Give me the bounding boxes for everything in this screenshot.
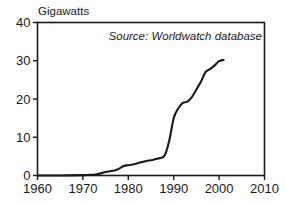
x-tick-label: 1990 — [159, 181, 188, 196]
x-tick-label: 1970 — [68, 181, 97, 196]
y-tick-label: 30 — [16, 53, 30, 68]
y-tick-label: 10 — [16, 130, 30, 145]
y-axis-title: Gigawatts — [38, 5, 89, 17]
y-tick-label: 20 — [16, 92, 30, 107]
chart-container: Gigawatts 010203040 19601970198019902000… — [0, 0, 286, 202]
line-chart: Gigawatts 010203040 19601970198019902000… — [0, 0, 286, 202]
x-tick-label: 2000 — [205, 181, 234, 196]
x-tick-label: 1960 — [23, 181, 52, 196]
y-tick-label: 40 — [16, 15, 30, 30]
x-tick-label: 2010 — [250, 181, 279, 196]
source-annotation: Source: Worldwatch database — [109, 30, 262, 42]
x-tick-label: 1980 — [114, 181, 143, 196]
